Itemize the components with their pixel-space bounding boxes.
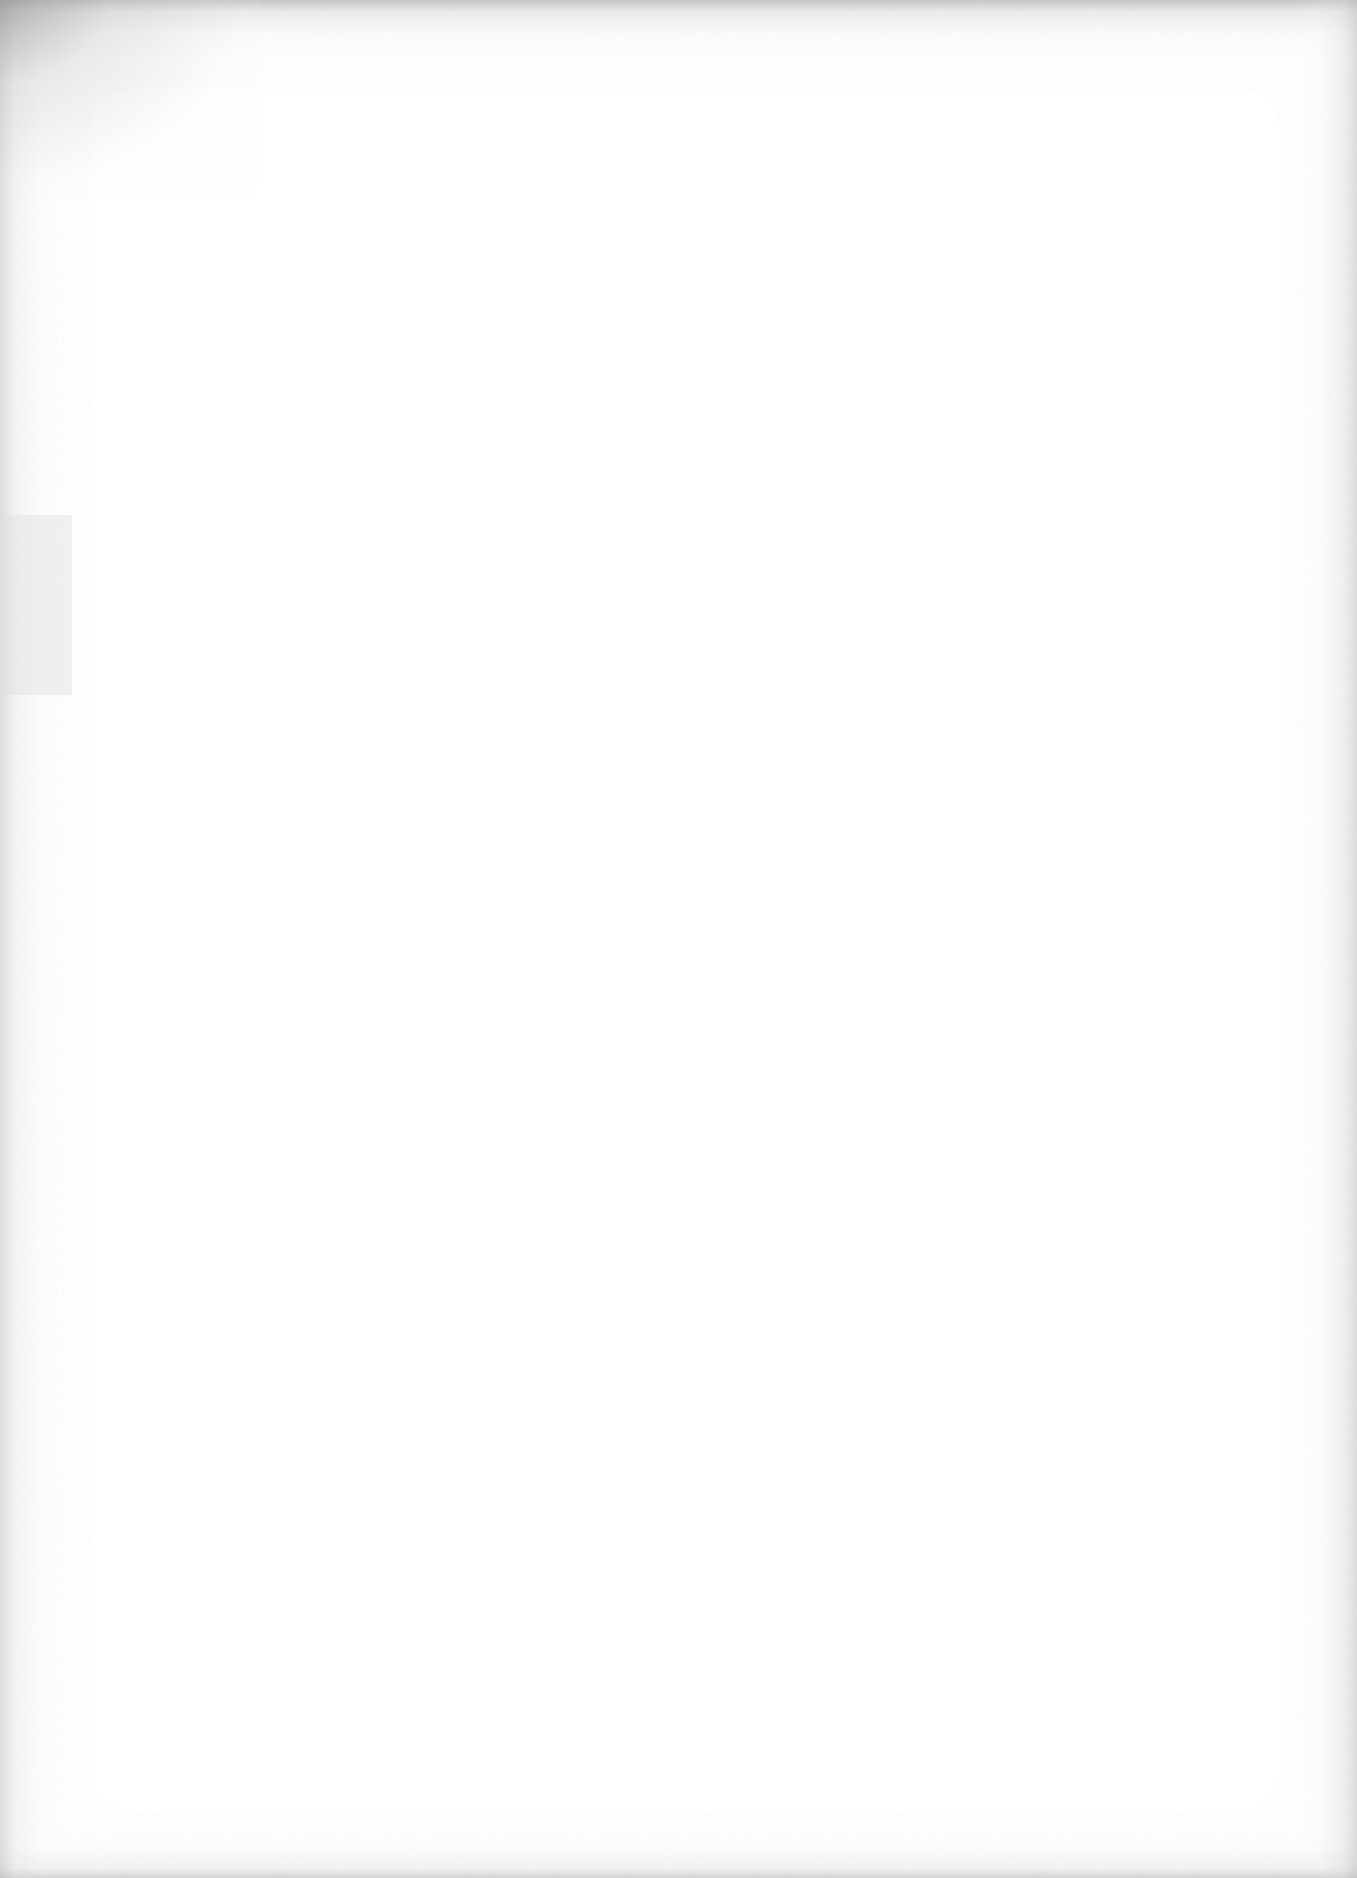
scan-edge-top xyxy=(0,0,1357,60)
scan-edge-left xyxy=(0,0,70,1878)
scan-corner-shadow xyxy=(0,0,260,200)
scan-edge-bottom xyxy=(0,1828,1357,1878)
scan-grain-texture xyxy=(0,0,1357,1878)
blank-scanned-page xyxy=(0,0,1357,1878)
scan-left-patch xyxy=(0,515,72,695)
scan-edge-right xyxy=(1297,0,1357,1878)
